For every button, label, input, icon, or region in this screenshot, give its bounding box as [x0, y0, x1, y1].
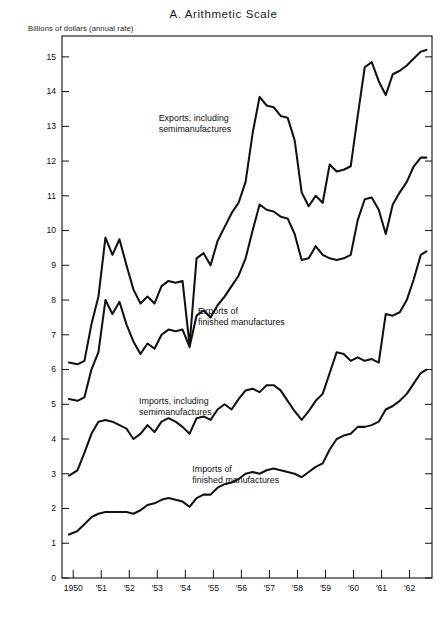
series-lines — [69, 50, 426, 535]
y-tick-label: 2 — [51, 503, 56, 513]
series-label: semimanufactures — [159, 124, 232, 134]
y-tick-label: 9 — [51, 260, 56, 270]
y-tick-label: 7 — [51, 330, 56, 340]
x-tick-label: '58 — [292, 583, 303, 593]
y-tick-label: 11 — [47, 191, 56, 201]
y-tick-label: 5 — [51, 399, 56, 409]
series-label: Exports of — [198, 306, 238, 316]
series-label: Imports, including — [139, 396, 209, 406]
series-label: finished manufactures — [192, 475, 279, 485]
series-line — [69, 158, 426, 401]
plot-area: 0123456789101112131415 1950'51'52'53'54'… — [0, 0, 447, 620]
x-tick-label: '53 — [152, 583, 163, 593]
x-tick-label: '55 — [208, 583, 219, 593]
x-tick-label: '51 — [96, 583, 107, 593]
line-chart-svg: 0123456789101112131415 1950'51'52'53'54'… — [0, 0, 447, 620]
x-tick-label: '59 — [320, 583, 331, 593]
x-tick-label: '57 — [264, 583, 275, 593]
y-tick-label: 15 — [46, 52, 56, 62]
y-tick-label: 13 — [46, 121, 56, 131]
series-line — [69, 370, 426, 535]
x-tick-label: '52 — [124, 583, 135, 593]
x-tick-label: '62 — [404, 583, 415, 593]
y-tick-label: 12 — [46, 156, 56, 166]
series-label: Exports, including — [159, 113, 229, 123]
y-tick-label: 8 — [51, 295, 56, 305]
x-tick-label: '54 — [180, 583, 191, 593]
series-label: finished manufactures — [198, 317, 285, 327]
y-tick-label: 14 — [46, 86, 56, 96]
series-line — [69, 251, 426, 475]
y-tick-label: 6 — [51, 364, 56, 374]
y-tick-label: 3 — [51, 469, 56, 479]
y-tick-label: 4 — [51, 434, 56, 444]
chart-page: A. Arithmetic Scale Billions of dollars … — [0, 0, 447, 620]
x-tick-label: '60 — [348, 583, 359, 593]
series-label: Imports of — [192, 464, 232, 474]
x-tick-label: '61 — [376, 583, 387, 593]
series-label: semimanufactures — [139, 407, 212, 417]
y-tick-label: 10 — [46, 225, 56, 235]
x-tick-label: '56 — [236, 583, 247, 593]
y-tick-label: 0 — [51, 573, 56, 583]
y-tick-label: 1 — [51, 538, 56, 548]
x-axis-ticks: 1950'51'52'53'54'55'56'57'58'59'60'61'62 — [64, 570, 416, 593]
x-tick-label: 1950 — [64, 583, 83, 593]
series-annotations: Exports, includingsemimanufacturesExport… — [139, 113, 285, 485]
